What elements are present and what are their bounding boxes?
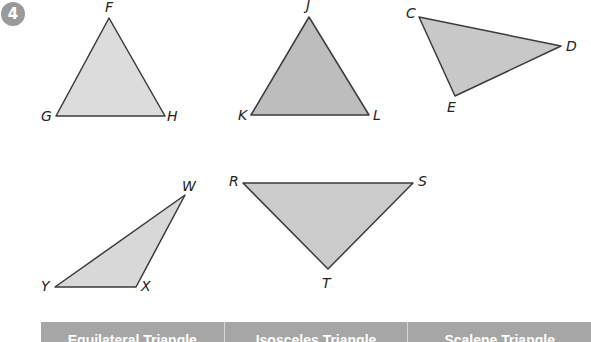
vertex-label-g: G — [41, 108, 52, 124]
vertex-label-c: C — [406, 5, 416, 21]
triangle-jkl: JKL — [238, 0, 381, 123]
vertex-label-y: Y — [41, 278, 51, 294]
vertex-label-f: F — [105, 0, 114, 15]
vertex-label-j: J — [303, 0, 310, 13]
triangle-shape — [55, 195, 185, 287]
triangle-fgh: FGH — [41, 0, 178, 124]
vertex-label-l: L — [373, 107, 381, 123]
vertex-label-d: D — [566, 38, 577, 54]
vertex-label-k: K — [238, 107, 249, 123]
triangle-shape — [56, 18, 165, 116]
triangle-shape — [419, 17, 561, 96]
column-header-isosceles: Isosceles Triangle — [225, 322, 409, 342]
triangle-wxy: WXY — [41, 178, 197, 294]
vertex-label-e: E — [447, 99, 456, 115]
vertex-label-w: W — [182, 178, 197, 194]
vertex-label-r: R — [229, 173, 239, 189]
triangle-cde: CDE — [406, 5, 577, 115]
vertex-label-x: X — [140, 278, 151, 294]
vertex-label-h: H — [167, 108, 178, 124]
column-header-scalene: Scalene Triangle — [408, 322, 591, 342]
classification-table-header: Equilateral Triangle Isosceles Triangle … — [41, 322, 591, 342]
vertex-label-s: S — [418, 173, 427, 189]
vertex-label-t: T — [322, 275, 332, 291]
column-header-equilateral: Equilateral Triangle — [41, 322, 225, 342]
triangle-rst: RST — [229, 173, 427, 291]
triangle-shape — [251, 17, 369, 115]
triangle-shape — [243, 183, 413, 269]
